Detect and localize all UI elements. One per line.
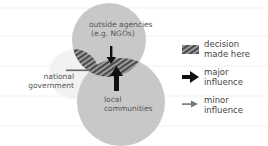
legend-minor-arrow-icon [182,101,198,108]
outside-agencies-label: outside agencies (e.g. NGOs) [89,20,153,38]
venn-diagram: outside agencies (e.g. NGOs) local commu… [0,0,268,146]
outside-agencies-line1: outside agencies [89,20,153,29]
legend-minor-line2: influence [204,105,243,115]
local-communities-line2: communities [104,104,152,113]
legend-hatched-box [182,45,199,54]
legend-decision-line2: made here [204,49,250,59]
local-communities-label: local communities [104,95,152,113]
legend-item-minor: minor influence [204,95,243,115]
arrow-national-government [66,70,92,72]
legend-item-decision: decision made here [204,39,250,59]
legend-major-arrow-icon [182,71,199,83]
legend-major-line1: major [204,67,243,77]
national-government-label: national government [24,72,74,90]
national-government-line1: national [24,72,74,81]
legend-item-major: major influence [204,67,243,87]
national-government-line2: government [24,81,74,90]
legend-decision-line1: decision [204,39,250,49]
local-communities-line1: local [104,95,152,104]
outside-agencies-line2: (e.g. NGOs) [89,29,153,38]
legend-major-line2: influence [204,77,243,87]
legend-minor-line1: minor [204,95,243,105]
